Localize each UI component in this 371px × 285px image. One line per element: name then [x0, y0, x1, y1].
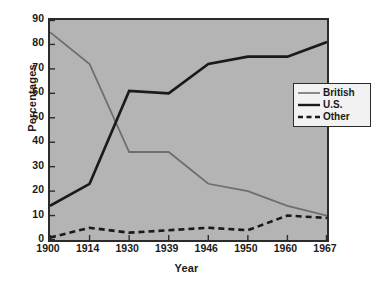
y-tick-label: 90 — [2, 13, 44, 24]
y-tick-label: 70 — [2, 62, 44, 73]
plot-area: British U.S. Other — [48, 18, 329, 242]
y-tick-label: 40 — [2, 135, 44, 146]
y-tick-label: 30 — [2, 159, 44, 170]
legend-line-swatch-us — [297, 99, 321, 111]
legend-line-swatch-british — [297, 87, 321, 99]
x-tick-label: 1967 — [302, 243, 348, 254]
chart-legend: British U.S. Other — [293, 83, 371, 127]
legend-label-british: British — [321, 88, 355, 98]
legend-label-us: U.S. — [321, 100, 342, 110]
legend-item-british: British — [297, 87, 367, 99]
series-line-british — [50, 32, 327, 215]
legend-item-us: U.S. — [297, 99, 367, 111]
y-tick-label: 20 — [2, 184, 44, 195]
legend-item-other: Other — [297, 111, 367, 123]
legend-line-swatch-other — [297, 111, 321, 123]
y-tick-label: 50 — [2, 111, 44, 122]
y-tick-label: 10 — [2, 208, 44, 219]
y-tick-label: 80 — [2, 37, 44, 48]
y-tick-label: 60 — [2, 86, 44, 97]
series-canvas — [50, 20, 327, 240]
series-line-other — [50, 216, 327, 238]
x-axis-title: Year — [48, 262, 325, 274]
legend-label-other: Other — [321, 112, 350, 122]
x-axis-tick-labels: 19001914193019391946195019601967 — [0, 243, 344, 259]
